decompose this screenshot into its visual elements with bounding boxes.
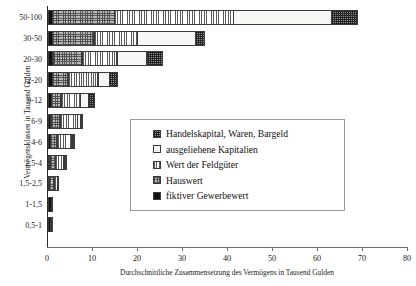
y-axis-tick-label: 30-50 xyxy=(23,34,42,43)
chart-legend: Handelskapital, Waren, Bargeldausgeliehe… xyxy=(130,119,345,211)
x-axis-tick-label: 0 xyxy=(45,254,49,263)
x-axis-tick-label: 70 xyxy=(358,254,366,263)
bar-segment xyxy=(137,31,196,46)
bar-segment xyxy=(233,10,332,25)
stacked-bar xyxy=(48,176,59,191)
x-axis-tick xyxy=(92,247,93,251)
x-axis-tick xyxy=(137,247,138,251)
legend-label: Hauswert xyxy=(166,175,203,186)
y-axis-tick-label: 12-20 xyxy=(23,75,42,84)
stacked-bar-chart: Vermögensklassen in Tausend Gulden 50-10… xyxy=(0,0,416,286)
bar-segment xyxy=(147,51,164,66)
x-axis-tick xyxy=(407,247,408,251)
bar-segment xyxy=(60,114,78,129)
x-axis-tick-label: 30 xyxy=(178,254,186,263)
stacked-bar xyxy=(48,217,53,232)
stacked-bar xyxy=(48,93,95,108)
stacked-bar xyxy=(48,31,205,46)
bar-segment xyxy=(57,134,72,149)
y-axis-tick-label: 1,5-2,5 xyxy=(19,179,42,188)
bar-segment xyxy=(52,31,94,46)
stacked-bar xyxy=(48,134,75,149)
stacked-bar xyxy=(48,197,53,212)
bar-segment xyxy=(81,114,84,129)
bar-segment xyxy=(195,31,205,46)
bar-segment xyxy=(117,51,148,66)
stacked-bar xyxy=(48,72,118,87)
legend-swatch-icon xyxy=(153,192,161,200)
stacked-bar xyxy=(48,51,163,66)
legend-swatch-icon xyxy=(153,161,161,169)
x-axis-tick-label: 50 xyxy=(268,254,276,263)
legend-item: fiktiver Gewerbewert xyxy=(153,188,340,204)
bar-segment xyxy=(61,93,81,108)
y-axis-tick-label: 6-9 xyxy=(31,117,42,126)
y-axis-tick-label: 50-100 xyxy=(19,13,42,22)
y-axis-tick-label: 0,5-1 xyxy=(25,220,42,229)
legend-label: Handelskapital, Waren, Bargeld xyxy=(166,128,288,139)
legend-item: Handelskapital, Waren, Bargeld xyxy=(153,126,340,142)
y-axis-tick-label: 9-12 xyxy=(27,96,42,105)
bar-segment xyxy=(68,72,99,87)
bar-segment xyxy=(51,197,53,212)
stacked-bar xyxy=(48,10,358,25)
x-axis-tick xyxy=(227,247,228,251)
bar-segment xyxy=(52,72,68,87)
x-axis-tick-label: 10 xyxy=(88,254,96,263)
bar-segment xyxy=(88,93,95,108)
x-axis-tick xyxy=(272,247,273,251)
x-axis-tick-label: 80 xyxy=(403,254,411,263)
x-axis-title: Durchschnittliche Zusammensetzung des Ve… xyxy=(47,268,407,277)
legend-item: Hauswert xyxy=(153,173,340,189)
bar-segment xyxy=(331,10,358,25)
bar-segment xyxy=(98,72,110,87)
legend-swatch-icon xyxy=(153,176,161,184)
legend-swatch-icon xyxy=(153,145,161,153)
legend-label: fiktiver Gewerbewert xyxy=(166,190,248,201)
bar-segment xyxy=(51,217,53,232)
x-axis-tick-label: 20 xyxy=(133,254,141,263)
bar-segment xyxy=(109,72,118,87)
y-axis-tick-label: 4-6 xyxy=(31,137,42,146)
y-axis-tick-label: 2,5-4 xyxy=(25,158,42,167)
x-axis-tick xyxy=(317,247,318,251)
bar-segment xyxy=(94,31,138,46)
legend-item: Wert der Feldgüter xyxy=(153,157,340,173)
y-axis-tick-label: 1-1,5 xyxy=(25,200,42,209)
bar-segment xyxy=(52,10,115,25)
stacked-bar xyxy=(48,114,83,129)
stacked-bar xyxy=(48,155,67,170)
y-axis-tick-label: 20-30 xyxy=(23,54,42,63)
bar-segment xyxy=(114,10,233,25)
legend-label: ausgeliehene Kapitalien xyxy=(166,144,258,155)
bar-segment xyxy=(53,51,83,66)
bar-segment xyxy=(65,155,67,170)
legend-swatch-icon xyxy=(153,130,161,138)
bar-segment xyxy=(57,176,59,191)
x-axis-tick-label: 40 xyxy=(223,254,231,263)
x-axis-tick xyxy=(362,247,363,251)
bar-segment xyxy=(82,51,118,66)
legend-label: Wert der Feldgüter xyxy=(166,159,238,170)
legend-item: ausgeliehene Kapitalien xyxy=(153,142,340,158)
x-axis-tick-label: 60 xyxy=(313,254,321,263)
bar-segment xyxy=(73,134,75,149)
x-axis-tick xyxy=(182,247,183,251)
